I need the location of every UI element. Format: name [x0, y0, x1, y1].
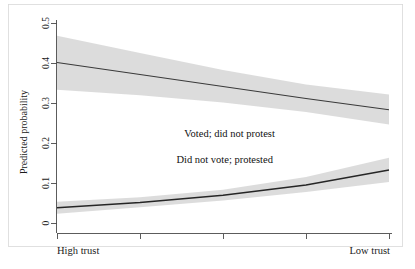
x-axis-label-high-trust: High trust	[57, 245, 99, 256]
y-tick-label-0: 0	[41, 220, 51, 225]
chart-figure: 0.5 0.4 0.3 0.2 0.1 0 Predicted probabil…	[0, 0, 415, 269]
predicted-probability-chart: 0.5 0.4 0.3 0.2 0.1 0 Predicted probabil…	[0, 0, 415, 269]
series-label-voted-did-not-protest: Voted; did not protest	[184, 128, 275, 139]
y-tick-label-0.3: 0.3	[41, 97, 51, 109]
y-axis-title: Predicted probability	[18, 90, 29, 174]
series-label-did-not-vote-protested: Did not vote; protested	[176, 154, 273, 165]
y-tick-label-0.4: 0.4	[41, 57, 51, 69]
y-tick-label-0.2: 0.2	[41, 137, 51, 149]
y-tick-label-0.5: 0.5	[41, 17, 51, 29]
y-tick-label-0.1: 0.1	[41, 177, 51, 189]
x-axis-label-low-trust: Low trust	[349, 245, 390, 256]
